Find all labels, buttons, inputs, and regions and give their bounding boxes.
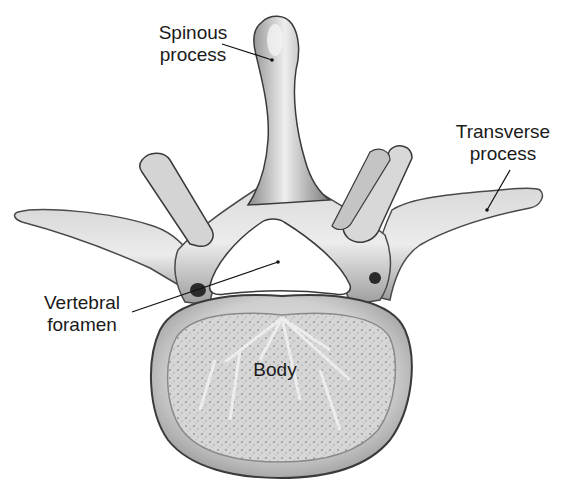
label-spinous-process: Spinous process bbox=[143, 22, 243, 66]
label-transverse-process: Transverse process bbox=[448, 121, 558, 165]
label-transverse-line2: process bbox=[448, 143, 558, 165]
leader-spinous-dot bbox=[270, 58, 274, 62]
right-pedicle-shadow bbox=[369, 272, 381, 284]
label-transverse-line1: Transverse bbox=[448, 121, 558, 143]
spinous-process-shape bbox=[248, 16, 330, 205]
label-body: Body bbox=[240, 359, 310, 381]
label-foramen-line1: Vertebral bbox=[27, 292, 137, 314]
vertebral-body-inner bbox=[168, 313, 396, 462]
label-body-text: Body bbox=[240, 359, 310, 381]
label-spinous-line1: Spinous bbox=[143, 22, 243, 44]
vertebra-illustration bbox=[0, 0, 562, 494]
label-vertebral-foramen: Vertebral foramen bbox=[27, 292, 137, 336]
leader-foramen-dot bbox=[276, 260, 280, 264]
leader-transverse-dot bbox=[485, 208, 489, 212]
label-spinous-line2: process bbox=[143, 44, 243, 66]
spinous-tip-highlight bbox=[267, 24, 283, 56]
label-foramen-line2: foramen bbox=[27, 314, 137, 336]
right-transverse-process bbox=[372, 188, 542, 300]
